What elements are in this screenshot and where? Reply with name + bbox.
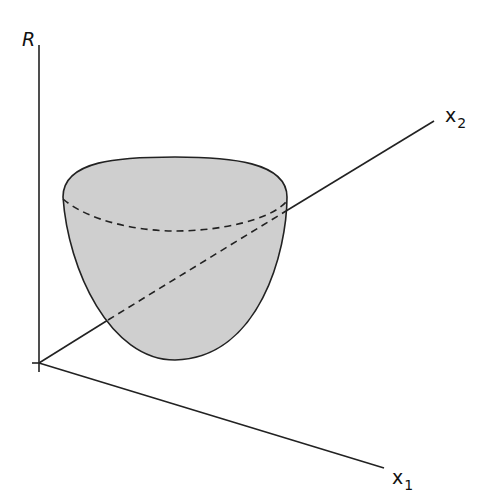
r-axis-label-text: R (22, 28, 35, 50)
x2-axis-label-text: x (445, 104, 456, 126)
r-axis-label: R (22, 30, 35, 49)
x2-axis-label: x2 (445, 106, 466, 125)
x1-axis-label-subscript: 1 (404, 477, 413, 493)
x2-axis-label-subscript: 2 (457, 115, 466, 131)
diagram-canvas (0, 0, 488, 502)
x1-axis (39, 363, 384, 468)
x2-axis-back-segment (286, 121, 434, 211)
x1-axis-label: x1 (392, 468, 413, 487)
x1-axis-label-text: x (392, 466, 403, 488)
paraboloid-surface (63, 157, 287, 360)
paraboloid-diagram: R x2 x1 (0, 0, 488, 502)
x2-axis-front-segment (39, 320, 108, 363)
